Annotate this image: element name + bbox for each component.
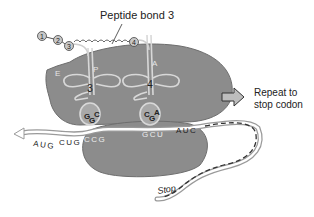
- codon-aug: AUG: [33, 139, 56, 151]
- amino-acid-1: 1: [38, 32, 47, 41]
- peptide-bond-wavy-line: [74, 40, 134, 42]
- svg-text:3: 3: [67, 43, 71, 50]
- amino-acid-3: 3: [65, 42, 74, 51]
- site-e-label: E: [55, 69, 60, 78]
- repeat-line-1: Repeat to: [254, 87, 298, 98]
- site-a-label: A: [152, 59, 158, 68]
- amino-acid-4: 4: [130, 38, 139, 47]
- svg-text:4: 4: [132, 39, 136, 46]
- site-p-label: P: [93, 65, 98, 74]
- amino-acid-2: 2: [54, 36, 63, 45]
- svg-text:2: 2: [56, 37, 60, 44]
- trna-3-number: 3: [87, 83, 93, 94]
- svg-text:1: 1: [40, 33, 44, 40]
- ribosome-large-subunit: [46, 44, 232, 125]
- trna-4-number: 4: [147, 79, 153, 90]
- codon-cug: CUG: [59, 138, 81, 147]
- codon-auc: AUC: [176, 126, 197, 135]
- codon-gcu: GCU: [142, 130, 164, 139]
- svg-text:C: C: [94, 110, 100, 119]
- svg-text:A: A: [154, 108, 160, 117]
- mrna-arrowhead-icon: [14, 128, 24, 139]
- repeat-line-2: stop codon: [254, 99, 303, 110]
- codon-ccg: CCG: [84, 135, 106, 144]
- translation-diagram: 1 2 3 4 Peptide bond 3 E P A 3 4 G G C C…: [0, 0, 314, 217]
- peptide-bond-label: Peptide bond 3: [100, 9, 174, 21]
